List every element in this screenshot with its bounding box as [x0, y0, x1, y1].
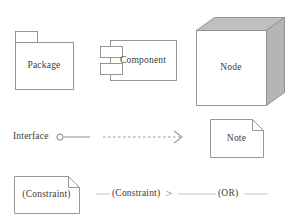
interface-label: Interface: [13, 131, 49, 141]
constraint-note-label: (Constraint): [14, 189, 79, 199]
package-label: Package: [15, 60, 73, 70]
node-side-face: [267, 18, 285, 106]
dashed-open-arrow: [103, 131, 182, 143]
component-port-lower: [101, 64, 123, 75]
note-label: Note: [210, 133, 263, 143]
or-link-label: (OR): [218, 188, 238, 198]
node-label: Node: [196, 62, 266, 72]
component-label: Component: [120, 55, 166, 65]
constraint-link-label: (Constraint): [112, 188, 160, 198]
interface-circle: [57, 134, 63, 140]
uml-notation-diagram: Package Component Node Note (Constraint)…: [0, 0, 294, 221]
package-tab: [16, 32, 38, 43]
constraint-link-separator: >: [166, 187, 172, 199]
lollipop-interface-symbol: [57, 134, 90, 140]
